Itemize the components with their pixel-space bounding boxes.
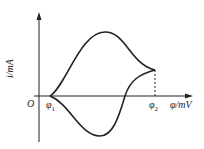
y-axis-arrow-icon (37, 12, 42, 20)
anodic-curve (50, 32, 155, 96)
x-axis-arrow-icon (185, 94, 193, 99)
phi1-label: φ1 (46, 99, 55, 113)
cathodic-curve (50, 70, 155, 136)
phi2-label: φ2 (149, 99, 158, 113)
cv-diagram: i/mA O φ1 φ2 φ/mV (0, 0, 204, 149)
diagram-svg (0, 0, 204, 149)
origin-label: O (27, 98, 34, 109)
y-axis-label: i/mA (4, 59, 15, 78)
x-axis-label: φ/mV (170, 99, 192, 110)
